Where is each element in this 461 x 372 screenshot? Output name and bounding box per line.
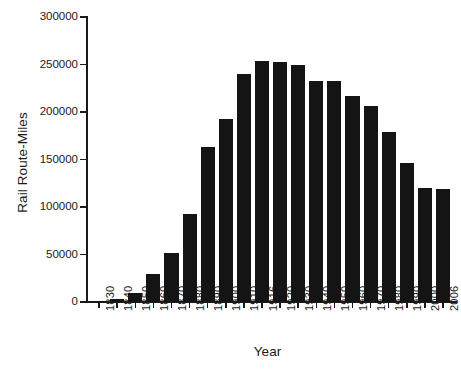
x-axis-tick xyxy=(153,302,155,308)
bar xyxy=(219,119,233,302)
bar xyxy=(364,106,378,302)
bar xyxy=(92,301,106,302)
x-axis-title: Year xyxy=(75,344,460,359)
bar xyxy=(183,214,197,302)
bar xyxy=(237,74,251,302)
bar xyxy=(345,96,359,302)
bar xyxy=(128,293,142,302)
x-axis-tick xyxy=(261,302,263,308)
y-axis-tick xyxy=(80,16,87,18)
bar xyxy=(418,188,432,302)
x-axis-tick xyxy=(189,302,191,308)
y-axis-tick xyxy=(80,254,87,256)
x-axis-tick xyxy=(279,302,281,308)
x-axis-tick xyxy=(352,302,354,308)
x-axis-tick xyxy=(135,302,137,308)
x-axis-tick xyxy=(316,302,318,308)
bar xyxy=(201,147,215,302)
x-axis-tick xyxy=(297,302,299,308)
y-axis-tick-label: 250000 xyxy=(4,58,78,70)
y-axis-tick xyxy=(80,159,87,161)
x-axis-tick xyxy=(370,302,372,308)
bar xyxy=(146,274,160,303)
bar xyxy=(327,81,341,302)
bar xyxy=(382,132,396,302)
x-axis-tick xyxy=(98,302,100,308)
bar xyxy=(164,253,178,302)
y-axis-tick xyxy=(80,301,87,303)
y-axis-tick-label: 50000 xyxy=(4,248,78,260)
y-axis-tick xyxy=(80,111,87,113)
y-axis-tick-label: 200000 xyxy=(4,105,78,117)
y-axis-tick-label: 0 xyxy=(4,295,78,307)
x-axis-tick xyxy=(406,302,408,308)
x-axis-tick xyxy=(424,302,426,308)
x-axis-tick xyxy=(388,302,390,308)
x-axis-tick xyxy=(243,302,245,308)
bar xyxy=(309,81,323,302)
bar xyxy=(110,299,124,302)
x-axis-tick xyxy=(116,302,118,308)
bar xyxy=(255,61,269,302)
y-axis-tick-label: 100000 xyxy=(4,200,78,212)
x-axis-tick xyxy=(334,302,336,308)
bar-chart: Rail Route-Miles 05000010000015000020000… xyxy=(0,0,461,372)
bar xyxy=(291,65,305,302)
bar xyxy=(273,62,287,302)
y-axis-tick-label: 150000 xyxy=(4,153,78,165)
x-axis-tick xyxy=(442,302,444,308)
bar xyxy=(436,189,450,302)
x-axis-tick xyxy=(207,302,209,308)
y-axis-tick-label: 300000 xyxy=(4,10,78,22)
y-axis-tick xyxy=(80,206,87,208)
x-axis-tick xyxy=(225,302,227,308)
bar xyxy=(400,163,414,302)
y-axis-tick xyxy=(80,64,87,66)
x-axis-tick xyxy=(171,302,173,308)
